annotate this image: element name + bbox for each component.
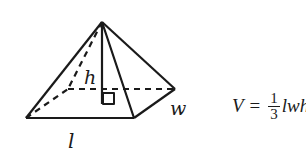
formula-equals: =	[250, 95, 261, 117]
length-label: l	[68, 129, 74, 153]
fraction-denominator: 3	[270, 107, 278, 122]
height-label: h	[84, 66, 96, 88]
pyramid-diagram: h w l	[0, 0, 306, 155]
hidden-base-edge-left	[26, 89, 68, 118]
fraction-numerator: 1	[268, 91, 280, 107]
formula-lhs: V	[232, 95, 244, 117]
right-angle-marker	[103, 93, 114, 104]
volume-formula: V = 1 3 lwh	[232, 86, 306, 126]
formula-fraction: 1 3	[268, 91, 280, 122]
width-label: w	[170, 97, 186, 119]
base-edge-right	[134, 89, 175, 118]
formula-rhs: lwh	[282, 95, 306, 117]
